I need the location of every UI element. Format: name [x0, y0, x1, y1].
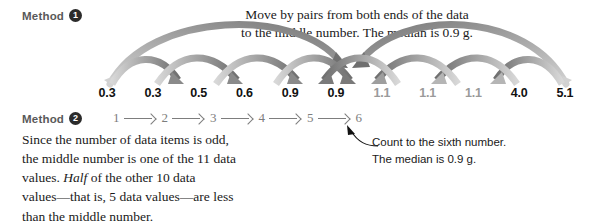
data-value: 0.3	[136, 86, 170, 100]
callout-line-1: Count to the sixth number.	[372, 134, 506, 151]
sequence-arrow-icon	[318, 113, 352, 123]
data-value: 1.1	[365, 86, 399, 100]
count-step: 2	[161, 110, 170, 126]
count-step: 1	[112, 110, 121, 126]
median-method-diagram: Method 1 Move by pairs from both ends of…	[0, 0, 598, 222]
explanation-line-5: than the middle number.	[22, 207, 352, 222]
callout-annotation: Count to the sixth number. The median is…	[372, 134, 506, 167]
sequence-arrow-icon	[221, 113, 255, 123]
explanation-line-3: values. Half of the other 10 data	[22, 168, 352, 187]
data-value-median: 0.9	[319, 86, 353, 100]
sequence-arrow-icon	[124, 113, 158, 123]
method-2-label: Method 2	[22, 112, 82, 125]
data-value: 1.1	[411, 86, 445, 100]
data-value: 0.9	[273, 86, 307, 100]
method-2-label-text: Method	[22, 113, 64, 125]
count-step: 3	[209, 110, 218, 126]
explanation-text: of the other 10 data	[87, 170, 195, 185]
explanation-line-4: values—that is, 5 data values—are less	[22, 187, 352, 206]
explanation-text: values.	[22, 170, 63, 185]
data-value: 0.6	[227, 86, 261, 100]
count-step: 4	[258, 110, 267, 126]
pairing-arcs-diagram	[0, 18, 598, 90]
sequence-arrow-icon	[172, 113, 206, 123]
data-value: 4.0	[502, 86, 536, 100]
data-value: 1.1	[456, 86, 490, 100]
method-2-badge: 2	[69, 112, 82, 125]
explanation-line-2: the middle number is one of the 11 data	[22, 149, 352, 168]
count-step: 5	[306, 110, 315, 126]
data-values-row: 0.3 0.3 0.5 0.6 0.9 0.9 1.1 1.1 1.1 4.0 …	[90, 86, 582, 100]
data-value: 0.3	[90, 86, 124, 100]
data-value: 5.1	[548, 86, 582, 100]
explanation-emphasis: Half	[63, 170, 87, 185]
explanation-line-1: Since the number of data items is odd,	[22, 130, 352, 149]
count-sequence: 1 2 3 4 5 6	[112, 110, 363, 126]
sequence-arrow-icon	[269, 113, 303, 123]
method-2-explanation: Since the number of data items is odd, t…	[22, 130, 352, 222]
callout-line-2: The median is 0.9 g.	[372, 151, 506, 168]
data-value: 0.5	[182, 86, 216, 100]
